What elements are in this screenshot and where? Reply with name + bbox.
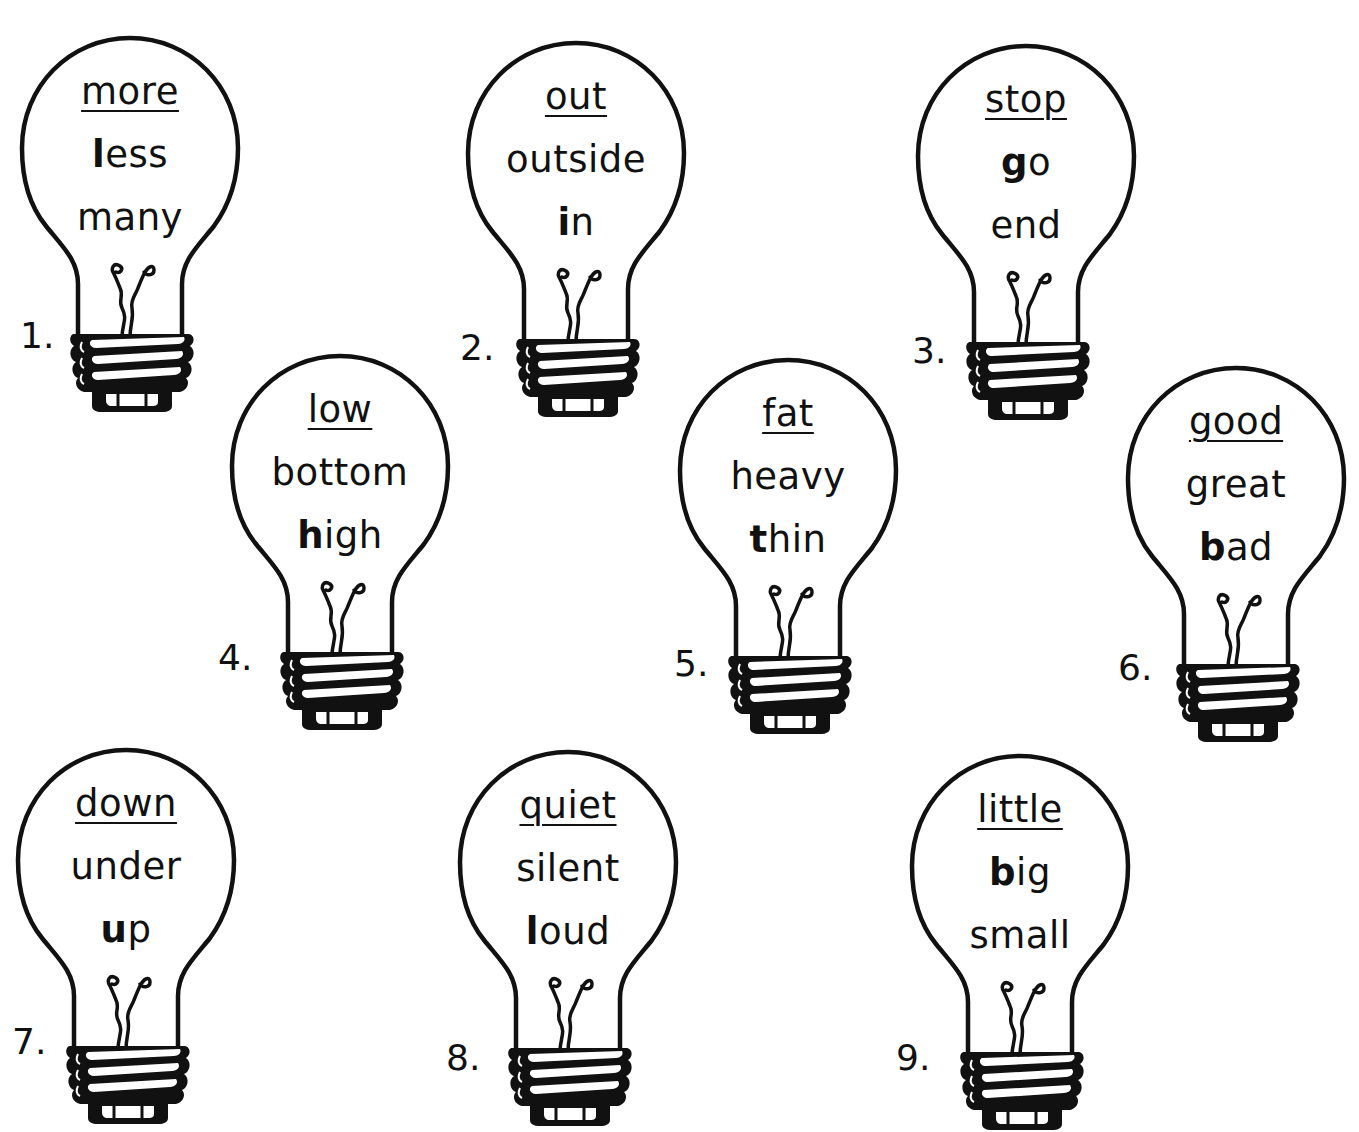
option-word[interactable]: bad [1128,516,1344,579]
option-rest: ig [1016,851,1051,894]
target-word: down [18,772,234,835]
option-word[interactable]: heavy [680,445,896,508]
option-rest: p [127,908,151,951]
option-first-letter: m [77,196,114,239]
option-word[interactable]: up [18,898,234,961]
option-word[interactable]: bottom [232,441,448,504]
option-word[interactable]: loud [460,900,676,963]
option-rest: ilent [536,847,620,890]
option-rest: reat [1210,463,1286,506]
option-first-letter: e [990,204,1013,247]
bulb-8: quiet silent loud [460,752,676,1124]
option-first-letter: b [1199,526,1226,569]
option-word[interactable]: outside [468,128,684,191]
option-word[interactable]: high [232,504,448,567]
option-word[interactable]: in [468,191,684,254]
item-number: 5. [674,646,708,682]
option-first-letter: o [506,138,529,181]
option-first-letter: u [71,845,95,888]
item-number: 3. [912,333,946,369]
item-number: 6. [1118,650,1152,686]
option-rest: ad [1226,526,1273,569]
option-rest: any [114,196,184,239]
option-rest: ottom [296,451,409,494]
target-word: more [22,60,238,123]
option-rest: utside [529,138,646,181]
item-number: 2. [460,330,494,366]
option-first-letter: s [969,914,989,957]
option-word[interactable]: big [912,841,1128,904]
bulb-1: more less many [22,38,238,410]
target-word: good [1128,390,1344,453]
target-word: low [232,378,448,441]
target-word: quiet [460,774,676,837]
option-first-letter: g [1186,463,1210,506]
bulb-9: little big small [912,756,1128,1128]
option-rest: o [1028,141,1051,184]
target-word: out [468,65,684,128]
option-word[interactable]: thin [680,508,896,571]
item-number: 8. [446,1040,480,1076]
option-word[interactable]: silent [460,837,676,900]
option-first-letter: h [730,455,754,498]
option-first-letter: s [516,847,536,890]
option-word[interactable]: small [912,904,1128,967]
target-word: fat [680,382,896,445]
option-first-letter: g [1001,141,1028,184]
option-word[interactable]: end [918,194,1134,257]
item-number: 1. [20,318,54,354]
bulb-6: good great bad [1128,368,1344,740]
option-word[interactable]: go [918,131,1134,194]
item-number: 9. [896,1040,930,1076]
bulb-4: low bottom high [232,356,448,728]
target-word: little [912,778,1128,841]
option-rest: eavy [754,455,845,498]
option-rest: ess [105,133,168,176]
option-word[interactable]: under [18,835,234,898]
option-rest: nder [95,845,182,888]
option-rest: oud [539,910,610,953]
bulb-7: down under up [18,750,234,1122]
bulb-5: fat heavy thin [680,360,896,732]
option-first-letter: t [750,518,768,561]
option-first-letter: h [297,514,324,557]
option-rest: igh [324,514,383,557]
target-word: stop [918,68,1134,131]
option-rest: n [571,201,595,244]
option-rest: hin [768,518,827,561]
option-word[interactable]: great [1128,453,1344,516]
option-first-letter: u [101,908,128,951]
option-rest: nd [1014,204,1062,247]
option-first-letter: i [557,201,570,244]
option-word[interactable]: many [22,186,238,249]
item-number: 4. [218,640,252,676]
option-first-letter: b [272,451,296,494]
bulb-3: stop go end [918,46,1134,418]
option-first-letter: l [526,910,539,953]
item-number: 7. [12,1024,46,1060]
option-rest: mall [989,914,1070,957]
option-word[interactable]: less [22,123,238,186]
option-first-letter: l [92,133,105,176]
option-first-letter: b [989,851,1016,894]
bulb-2: out outside in [468,43,684,415]
